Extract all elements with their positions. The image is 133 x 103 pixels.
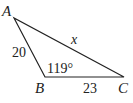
triangle-diagram: A B C 20 23 x 119° (0, 0, 133, 103)
side-label-bc: 23 (83, 81, 97, 96)
vertex-label-b: B (35, 80, 44, 96)
vertex-label-a: A (1, 3, 12, 19)
side-label-ac: x (70, 32, 78, 47)
vertex-label-c: C (118, 80, 129, 96)
angle-label-b: 119° (47, 61, 73, 76)
side-label-ab: 20 (12, 45, 26, 60)
